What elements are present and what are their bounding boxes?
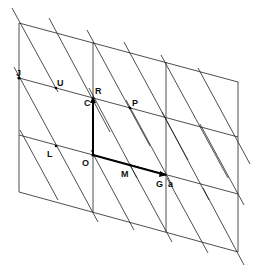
row-line-2 [19,78,238,137]
label-j: J [16,68,21,78]
label-g: G [156,179,163,189]
label-m: M [121,169,129,179]
label-p: P [132,98,138,108]
diagonal-line [161,55,228,178]
diagonal-line [167,178,208,253]
diagonal-line [198,68,250,164]
label-c: C [84,98,91,108]
point-o [91,153,94,156]
point-p [129,107,132,110]
diagonal-line [14,67,98,222]
point-m [129,164,132,167]
lattice-diagram: J U R C P L O M G a [0,0,253,270]
label-u: U [57,78,64,88]
label-a: a [168,179,174,189]
label-l: L [47,149,53,159]
diagonal-line [49,18,110,132]
row-line-1 [19,23,238,82]
diagonal-line [200,124,244,205]
point-l [55,145,58,148]
label-r: R [95,86,102,96]
row-line-4 [19,192,238,252]
label-o: O [82,158,89,168]
